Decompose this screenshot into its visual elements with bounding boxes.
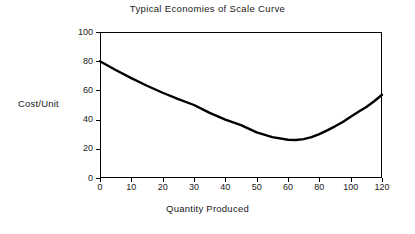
x-tick-label: 0 (85, 183, 115, 192)
y-tick-label: 80 (59, 57, 93, 66)
y-tick-label: 40 (59, 115, 93, 124)
y-tick-label: 60 (59, 86, 93, 95)
x-tick-label: 20 (148, 183, 178, 192)
y-tick-label: 0 (59, 174, 93, 183)
x-tick-label: 10 (116, 183, 146, 192)
plot-area (100, 32, 382, 178)
x-tick-mark (194, 178, 195, 182)
x-tick-mark (319, 178, 320, 182)
x-tick-mark (225, 178, 226, 182)
x-tick-mark (257, 178, 258, 182)
x-tick-label: 50 (242, 183, 272, 192)
chart-title: Typical Economies of Scale Curve (0, 3, 415, 14)
x-tick-mark (351, 178, 352, 182)
x-tick-label: 100 (336, 183, 366, 192)
x-axis-label: Quantity Produced (0, 203, 415, 214)
x-tick-label: 120 (367, 183, 397, 192)
x-tick-mark (382, 178, 383, 182)
x-tick-mark (100, 178, 101, 182)
x-tick-label: 30 (179, 183, 209, 192)
cost-per-unit-curve (100, 61, 382, 140)
x-tick-label: 40 (210, 183, 240, 192)
x-tick-label: 80 (304, 183, 334, 192)
x-tick-mark (131, 178, 132, 182)
y-tick-label: 100 (59, 28, 93, 37)
y-axis-label: Cost/Unit (18, 99, 59, 109)
x-tick-label: 60 (273, 183, 303, 192)
x-tick-mark (288, 178, 289, 182)
y-tick-label: 20 (59, 144, 93, 153)
x-tick-mark (163, 178, 164, 182)
chart-figure: Typical Economies of Scale Curve Cost/Un… (0, 0, 415, 234)
